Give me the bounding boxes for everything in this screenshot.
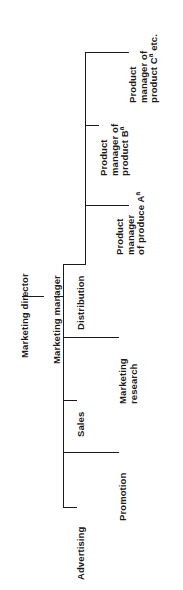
node-promotion: Promotion — [118, 473, 129, 521]
branch-marketing-research — [63, 337, 119, 338]
spine-functions — [63, 264, 64, 507]
org-chart-figure: Marketing director Marketing manager Dis… — [0, 0, 183, 590]
branch-promotion — [63, 452, 119, 453]
node-product-manager-b: Product manager of product Ba — [99, 124, 131, 176]
node-sales: Sales — [76, 412, 87, 437]
node-product-manager-c: Product manager of product Ca etc. — [128, 34, 160, 103]
branch-product-manager-b — [85, 125, 99, 126]
node-marketing-research-label-line1: Marketing — [118, 358, 129, 404]
node-distribution-label: Distribution — [76, 276, 87, 331]
node-product-manager-b-superscript: a — [118, 127, 125, 131]
node-product-manager-a-line3-text: of produce A — [135, 196, 146, 255]
node-marketing-manager: Marketing manager — [52, 275, 63, 364]
branch-advertising — [63, 507, 77, 508]
node-sales-label: Sales — [76, 412, 87, 437]
node-product-manager-c-line3-text: product C — [148, 57, 159, 103]
node-product-manager-a-superscript: a — [134, 192, 141, 196]
node-marketing-research-label-line2: research — [129, 358, 140, 404]
branch-sales — [63, 400, 77, 401]
node-product-manager-a: Product manager of produce Aa — [115, 192, 147, 255]
node-product-manager-c-superscript: a — [147, 54, 154, 58]
node-product-manager-b-line3: product Ba — [120, 124, 131, 176]
node-product-manager-c-line3: product Ca etc. — [149, 34, 160, 103]
node-advertising: Advertising — [76, 527, 87, 580]
connector-spine-to-product-managers — [63, 264, 86, 265]
node-advertising-label: Advertising — [76, 527, 87, 580]
node-product-manager-b-line1: Product — [99, 124, 110, 176]
branch-product-manager-c — [85, 52, 129, 53]
node-marketing-director: Marketing director — [20, 273, 31, 358]
node-marketing-manager-label: Marketing manager — [52, 275, 63, 364]
node-product-manager-b-line3-text: product B — [119, 130, 130, 176]
node-marketing-director-label: Marketing director — [20, 273, 31, 358]
node-promotion-label: Promotion — [118, 473, 129, 521]
node-product-manager-a-line3: of produce Aa — [136, 192, 147, 255]
node-product-manager-a-line1: Product — [115, 192, 126, 255]
node-product-manager-c-line3-tail: etc. — [148, 34, 159, 54]
node-distribution: Distribution — [76, 276, 87, 331]
spine-product-managers — [85, 52, 86, 264]
node-product-manager-c-line1: Product — [128, 34, 139, 103]
node-marketing-research: Marketing research — [118, 358, 139, 404]
